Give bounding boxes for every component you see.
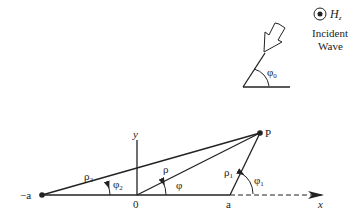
neg-a-point bbox=[39, 192, 45, 198]
phi2-arc bbox=[108, 185, 110, 195]
wave-direction-line bbox=[243, 53, 265, 87]
phi1-arc bbox=[241, 173, 253, 194]
rho-label: ρ bbox=[163, 163, 169, 175]
hz-label: Hz bbox=[329, 7, 342, 22]
rho1-label: ρ1 bbox=[224, 166, 234, 180]
point-p bbox=[257, 130, 263, 136]
neg-a-label: −a bbox=[20, 189, 31, 201]
phi1-label: φ1 bbox=[254, 174, 264, 188]
phi-label: φ bbox=[176, 179, 182, 191]
origin-label: 0 bbox=[133, 198, 139, 210]
rho2-label: ρ2 bbox=[84, 170, 94, 184]
diagram-canvas: Hz Incident Wave φ0 −a 0 a x y P ρ2 φ2 ρ… bbox=[0, 0, 352, 213]
p-label: P bbox=[265, 127, 271, 139]
a-label: a bbox=[226, 198, 231, 210]
wave-caption: Wave bbox=[318, 40, 343, 52]
x-axis-label: x bbox=[317, 198, 323, 210]
hz-field-symbol bbox=[314, 8, 326, 20]
rho2-line bbox=[42, 133, 260, 195]
phi-arc bbox=[163, 182, 166, 195]
phi2-label: φ2 bbox=[113, 178, 123, 192]
incident-wave-arrow-icon bbox=[264, 23, 285, 52]
rho-line bbox=[137, 133, 260, 195]
y-axis-label: y bbox=[132, 128, 138, 140]
phi0-label: φ0 bbox=[267, 66, 277, 80]
incident-caption: Incident bbox=[312, 27, 348, 39]
